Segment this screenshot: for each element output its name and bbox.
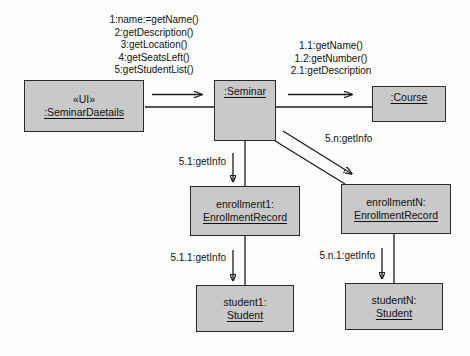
object-enrollment1[interactable]: enrollment1: EnrollmentRecord bbox=[190, 186, 300, 236]
message-1-2: 1.2:getNumber() bbox=[272, 53, 390, 66]
message-5-n: 5.n:getInfo bbox=[325, 133, 405, 146]
message-4: 4:getSeatsLeft() bbox=[98, 52, 210, 65]
message-enrollmentN-to-studentN: 5.n.1:getInfo bbox=[297, 250, 375, 263]
object-student1-instance: student1: bbox=[223, 296, 266, 309]
object-student1-class: Student bbox=[227, 309, 263, 322]
message-1-1: 1.1:getName() bbox=[272, 40, 390, 53]
object-studentN-instance: studentN: bbox=[372, 294, 417, 307]
object-seminar-details-stereotype: «UI» bbox=[73, 93, 95, 106]
message-5-1: 5.1:getInfo bbox=[156, 156, 226, 169]
message-1: 1:name:=getName() bbox=[98, 14, 210, 27]
object-enrollment1-instance: enrollment1: bbox=[216, 198, 274, 211]
message-2-1: 2.1:getDescription bbox=[272, 65, 390, 78]
message-5-1-1: 5.1.1:getInfo bbox=[148, 252, 226, 265]
object-course[interactable]: :Course bbox=[372, 86, 446, 122]
link-seminar-to-enrollmentN bbox=[272, 139, 345, 184]
object-enrollmentN[interactable]: enrollmentN: EnrollmentRecord bbox=[341, 184, 451, 234]
message-list-ui-to-seminar: 1:name:=getName() 2:getDescription() 3:g… bbox=[98, 14, 210, 77]
object-seminar[interactable]: :Seminar bbox=[214, 80, 276, 141]
object-studentN-class: Student bbox=[376, 307, 412, 320]
object-seminar-details-name: :SeminarDaetails bbox=[44, 106, 124, 119]
message-list-seminar-to-course: 1.1:getName() 1.2:getNumber() 2.1:getDes… bbox=[272, 40, 390, 78]
message-2: 2:getDescription() bbox=[98, 27, 210, 40]
object-enrollment1-class: EnrollmentRecord bbox=[203, 211, 287, 224]
object-studentN[interactable]: studentN: Student bbox=[345, 283, 443, 330]
message-5: 5:getStudentList() bbox=[98, 64, 210, 77]
message-seminar-to-enrollmentN: 5.n:getInfo bbox=[325, 133, 405, 146]
message-seminar-to-enrollment1: 5.1:getInfo bbox=[156, 156, 226, 169]
object-student1[interactable]: student1: Student bbox=[196, 285, 294, 332]
message-enrollment1-to-student1: 5.1.1:getInfo bbox=[148, 252, 226, 265]
object-course-name: :Course bbox=[391, 91, 428, 104]
object-enrollmentN-instance: enrollmentN: bbox=[366, 196, 426, 209]
object-seminar-details[interactable]: «UI» :SeminarDaetails bbox=[24, 80, 144, 132]
message-3: 3:getLocation() bbox=[98, 39, 210, 52]
object-enrollmentN-class: EnrollmentRecord bbox=[354, 209, 438, 222]
uml-collaboration-diagram-canvas: «UI» :SeminarDaetails :Seminar :Course e… bbox=[0, 0, 470, 356]
object-seminar-name: :Seminar bbox=[224, 85, 266, 98]
message-5-n-1: 5.n.1:getInfo bbox=[297, 250, 375, 263]
